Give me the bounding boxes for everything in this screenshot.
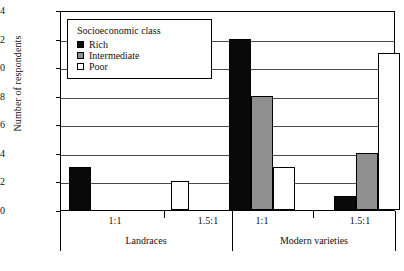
- legend-item-label: Poor: [89, 61, 108, 72]
- bar-poor-landraces-1-5-1: [171, 181, 189, 210]
- gridline: [61, 98, 394, 99]
- y-axis-tick-label: 4: [0, 149, 5, 159]
- gridline: [61, 183, 394, 184]
- y-axis-title: Number of respondents: [12, 9, 23, 159]
- bar-rich-landraces-1-1: [69, 167, 91, 210]
- x-axis-group-divider: [395, 211, 396, 251]
- legend-title: Socioeconomic class: [77, 25, 203, 36]
- y-axis-tick-label: 8: [0, 92, 5, 102]
- legend-swatch-intermediate-icon: [77, 52, 84, 59]
- x-axis-group-label: Modern varieties: [234, 235, 394, 246]
- legend-items: RichIntermediatePoor: [77, 39, 203, 72]
- bar-poor-modern-varieties-1-1: [273, 167, 295, 210]
- x-axis-group-divider: [60, 211, 61, 251]
- y-axis-tick-label: 12: [0, 35, 5, 45]
- y-axis-tick-label: 2: [0, 177, 5, 187]
- legend-swatch-poor-icon: [77, 63, 84, 70]
- legend-swatch-rich-icon: [77, 41, 84, 48]
- legend-item-rich: Rich: [77, 39, 203, 50]
- x-axis-sublabel: 1.5:1: [320, 215, 400, 226]
- legend: Socioeconomic class RichIntermediatePoor: [67, 19, 212, 79]
- bar-intermediate-modern-varieties-1-5-1: [356, 153, 378, 210]
- bar-rich-modern-varieties-1-1: [229, 39, 251, 210]
- x-axis-subgroup-separator: [164, 211, 165, 218]
- y-axis-tick-label: 14: [0, 6, 5, 16]
- x-axis-group-divider: [232, 211, 233, 251]
- legend-item-label: Intermediate: [89, 50, 140, 61]
- x-axis-sublabel: 1:1: [75, 215, 155, 226]
- legend-item-label: Rich: [89, 39, 108, 50]
- x-axis-group-label: Landraces: [66, 235, 226, 246]
- x-axis-sublabel: 1:1: [222, 215, 302, 226]
- legend-item-intermediate: Intermediate: [77, 50, 203, 61]
- y-axis-tick-label: 6: [0, 120, 5, 130]
- y-axis-tick-label: 10: [0, 63, 5, 73]
- gridline: [61, 126, 394, 127]
- bar-chart: Number of respondents 02468101214 Socioe…: [0, 0, 404, 271]
- x-axis-subgroup-separator: [313, 211, 314, 218]
- legend-item-poor: Poor: [77, 61, 203, 72]
- gridline: [61, 155, 394, 156]
- bar-rich-modern-varieties-1-5-1: [334, 196, 356, 210]
- bar-poor-modern-varieties-1-5-1: [378, 53, 400, 210]
- y-axis-tick-label: 0: [0, 206, 5, 216]
- bar-intermediate-modern-varieties-1-1: [251, 96, 273, 210]
